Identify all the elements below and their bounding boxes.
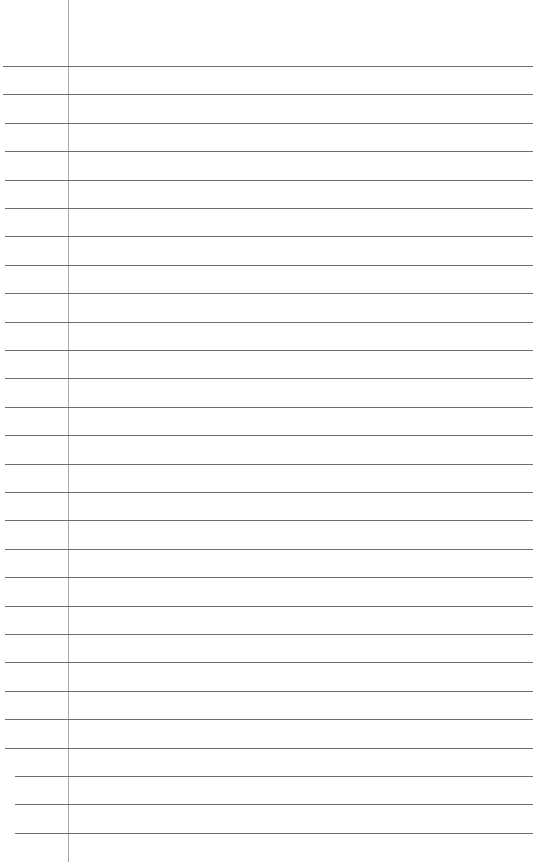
ruled-line xyxy=(5,378,533,379)
margin-line xyxy=(68,0,69,862)
ruled-line xyxy=(5,407,533,408)
ruled-line xyxy=(15,776,533,777)
ruled-line xyxy=(3,94,533,95)
ruled-line xyxy=(5,577,533,578)
ruled-line xyxy=(5,435,533,436)
ruled-line xyxy=(5,123,533,124)
ruled-line xyxy=(5,265,533,266)
ruled-line xyxy=(5,549,533,550)
ruled-line xyxy=(3,66,533,67)
ruled-line xyxy=(5,151,533,152)
ruled-line xyxy=(5,322,533,323)
ruled-line xyxy=(5,634,533,635)
ruled-line xyxy=(15,833,533,834)
ruled-line xyxy=(5,293,533,294)
ruled-line xyxy=(5,350,533,351)
ruled-line xyxy=(5,180,533,181)
ruled-line xyxy=(15,804,533,805)
ruled-line xyxy=(5,748,533,749)
ruled-line xyxy=(5,520,533,521)
ruled-line xyxy=(5,236,533,237)
ruled-line xyxy=(5,691,533,692)
ruled-line xyxy=(5,464,533,465)
ruled-line xyxy=(5,208,533,209)
ruled-line xyxy=(5,492,533,493)
ruled-line xyxy=(5,719,533,720)
ruled-line xyxy=(5,606,533,607)
ruled-line xyxy=(5,662,533,663)
